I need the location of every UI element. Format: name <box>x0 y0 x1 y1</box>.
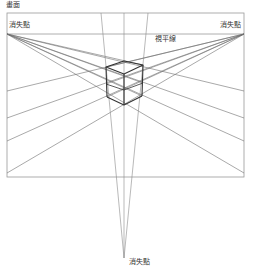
perspective-diagram <box>0 0 253 269</box>
guide-lines-bottom-vp <box>101 13 148 258</box>
